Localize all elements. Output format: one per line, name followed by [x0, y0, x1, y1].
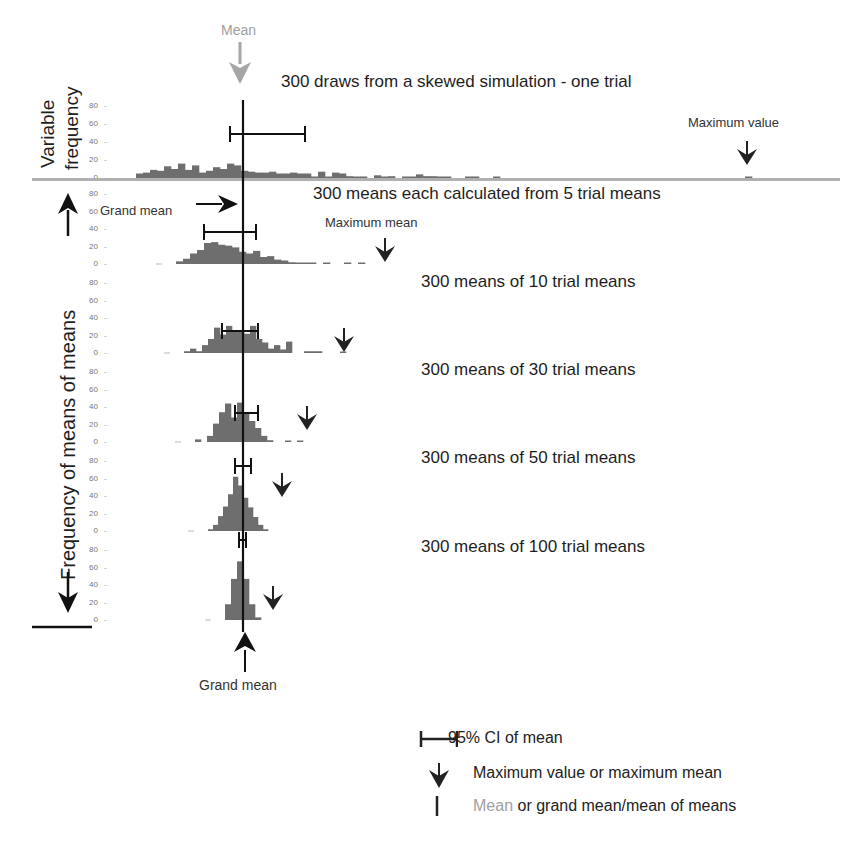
histogram-bar [360, 177, 367, 179]
histogram-bar [353, 177, 360, 179]
histogram-bar [232, 247, 239, 264]
histogram-bar [219, 412, 225, 442]
histogram-bar [225, 604, 231, 620]
histogram-bar [472, 177, 479, 179]
histogram-bar [263, 529, 268, 531]
histogram-bar [262, 343, 268, 354]
legend-mean-label: Mean or grand mean/mean of means [473, 797, 736, 815]
histogram-bar [253, 517, 258, 531]
histogram-stack [0, 0, 865, 853]
histogram-bar [204, 243, 211, 264]
histogram-bar [192, 165, 199, 178]
histogram-bar [232, 330, 238, 353]
histogram-bar [231, 418, 237, 443]
max-arrow-icon [429, 763, 449, 788]
histogram-bar [246, 254, 253, 265]
histogram-bar [276, 174, 283, 179]
histogram-bar [304, 351, 310, 353]
histogram-bar [493, 177, 500, 179]
histogram-bar [465, 177, 472, 179]
histogram-bar [211, 242, 218, 264]
histogram-bar [231, 579, 237, 620]
histogram-bar [258, 525, 263, 531]
histogram-bar [295, 263, 302, 265]
histogram-bar [227, 164, 234, 178]
histogram-bar [197, 250, 204, 264]
histogram-bar [171, 169, 178, 178]
histogram-bar [281, 261, 288, 265]
histogram-bar [416, 174, 423, 178]
histogram-bar [402, 177, 409, 179]
histogram-bar [184, 351, 190, 353]
histogram-bar [223, 507, 228, 532]
histogram-bar [218, 245, 225, 264]
histogram-bar [269, 172, 276, 178]
histogram-bar [195, 439, 201, 442]
histogram-bar [190, 254, 197, 265]
legend: 95% CI of mean Maximum value or maximum … [418, 728, 858, 838]
histogram-bar [339, 174, 346, 179]
histogram-bar [261, 436, 267, 442]
histogram-bar [381, 177, 388, 179]
histogram-bar [325, 177, 332, 179]
histogram-bar [218, 516, 223, 531]
histogram-bar [267, 256, 274, 264]
histogram-bar [213, 424, 219, 442]
histogram-bar [297, 441, 303, 443]
histogram-bar [309, 263, 316, 265]
histogram-bar [185, 170, 192, 178]
legend-mean-grey: Mean [473, 797, 513, 814]
histogram-bar [248, 172, 255, 178]
histogram-bar [430, 176, 437, 178]
histogram-bar [304, 174, 311, 179]
histogram-bar [423, 176, 430, 178]
histogram-bar [285, 441, 291, 443]
histogram-bar [260, 257, 267, 264]
histogram-bar [268, 349, 274, 353]
histogram-bar [208, 339, 214, 353]
legend-ci-label: 95% CI of mean [448, 729, 563, 747]
histogram-bar [250, 326, 256, 353]
histogram-bar [143, 173, 150, 178]
histogram-bar [388, 176, 395, 178]
histogram-bar [178, 164, 185, 178]
histogram-bar [409, 177, 416, 179]
histogram-bar [207, 436, 213, 442]
histogram-bar [233, 477, 238, 531]
histogram-bar [157, 171, 164, 178]
histogram-bar [323, 263, 330, 265]
histogram-bar [199, 173, 206, 178]
histogram-bar [290, 173, 297, 178]
histogram-bar [225, 404, 231, 443]
histogram-bar [244, 334, 250, 353]
histogram-bar [206, 171, 213, 178]
histogram-bar [190, 349, 196, 353]
histogram-bar [267, 440, 273, 442]
histogram-bar [297, 174, 304, 179]
histogram-bar [150, 170, 157, 178]
histogram-bar [280, 350, 286, 354]
histogram-bar [196, 351, 202, 353]
histogram-bar [255, 617, 261, 620]
histogram-bar [253, 251, 260, 264]
histogram-bar [311, 177, 318, 179]
histogram-bar [214, 328, 220, 353]
histogram-bar [225, 246, 232, 264]
histogram-bar [288, 262, 295, 264]
legend-mean-rest: or grand mean/mean of means [513, 797, 736, 814]
histogram-bar [316, 351, 322, 353]
histogram-bar [213, 167, 220, 178]
histogram-bar [340, 352, 346, 354]
histogram-bar [346, 176, 353, 178]
mean-arrow-icon [229, 62, 251, 84]
histogram-bar [344, 263, 351, 265]
legend-max-label: Maximum value or maximum mean [473, 764, 722, 782]
histogram-bar [208, 529, 213, 531]
histogram-bar [745, 177, 752, 179]
histogram-bar [183, 259, 190, 264]
histogram-bar [310, 351, 316, 353]
histogram-bar [255, 173, 262, 178]
histogram-bar [302, 263, 309, 265]
histogram-bar [164, 166, 171, 178]
grand-mean-bottom-arrow-icon [234, 632, 256, 652]
